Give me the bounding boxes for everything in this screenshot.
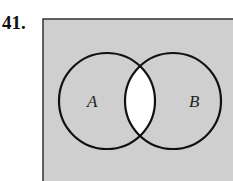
set-b-label: B [189, 92, 200, 111]
venn-diagram: A B [0, 0, 233, 181]
set-a-label: A [86, 92, 98, 111]
